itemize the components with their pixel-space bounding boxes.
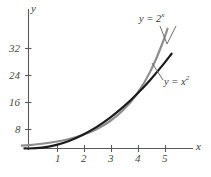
chart-plot-area <box>0 0 211 177</box>
y-axis-label: y <box>31 2 36 14</box>
quadratic-curve-label-text: y = x <box>164 76 186 87</box>
x-tick-label-4: 4 <box>135 152 141 164</box>
quadratic-curve-label: y = x2 <box>164 74 189 87</box>
y-tick-label-32: 32 <box>9 42 20 54</box>
x-tick-label-5: 5 <box>162 152 168 164</box>
y-tick-label-8: 8 <box>15 123 21 135</box>
y-tick-label-24: 24 <box>9 69 20 81</box>
x-axis-label: x <box>196 140 201 152</box>
exp-curve-label: y = 2x <box>139 11 164 24</box>
x-tick-label-1: 1 <box>55 152 61 164</box>
x-tick-label-3: 3 <box>108 152 114 164</box>
y-tick-label-16: 16 <box>9 96 20 108</box>
curve-y-equals-x-squared <box>24 54 171 149</box>
figure-container: 32 24 16 8 1 2 3 4 5 y x y = 2x y = x2 <box>0 0 211 177</box>
exp-curve-label-text: y = 2 <box>139 13 161 24</box>
x-tick-label-2: 2 <box>81 152 87 164</box>
exp-curve-label-exponent: x <box>161 11 164 19</box>
quadratic-curve-label-exponent: 2 <box>186 74 190 82</box>
